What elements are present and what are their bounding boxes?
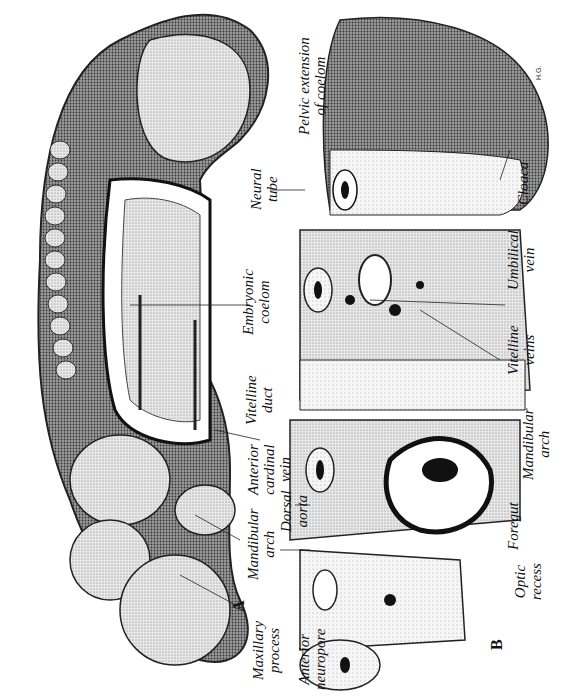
label-line: aorta: [294, 490, 310, 532]
label-dorsal-aorta: Dorsal aorta: [278, 490, 310, 532]
label-maxillary-process: Maxillary process: [250, 621, 282, 680]
label-line: Optic: [512, 563, 528, 600]
label-line: neuropore: [312, 629, 328, 690]
panel-a-letter: A: [230, 600, 248, 612]
label-umbilical-vein: Umbilical vein: [505, 230, 537, 290]
label-anterior-cardinal-vein: Anterior cardinal vein: [245, 444, 293, 495]
label-line: recess: [528, 563, 544, 600]
label-line: Vitelline: [505, 325, 521, 375]
panel-a-embryo: [38, 15, 268, 665]
label-line: Umbilical: [505, 230, 521, 290]
diagram-illustration: [0, 0, 580, 699]
label-line: Pelvic extension: [296, 37, 312, 135]
label-line: Mandibular: [520, 408, 536, 480]
label-line: vein: [521, 230, 537, 290]
label-line: Embryonic: [240, 269, 256, 335]
label-mandibular-arch-a: Mandibular arch: [245, 508, 277, 580]
label-pelvic-extension-of-coelom: Pelvic extension of coelom: [296, 37, 328, 135]
label-line: Vitelline: [243, 375, 259, 425]
label-line: coelom: [256, 269, 272, 335]
label-line: Maxillary: [250, 621, 266, 680]
label-vitelline-veins: Vitelline veins: [505, 325, 537, 375]
artist-signature: H.G.: [535, 66, 542, 80]
label-line: arch: [261, 508, 277, 580]
label-vitelline-duct: Vitelline duct: [243, 375, 275, 425]
label-anterior-neuropore: Anterior neuropore: [296, 629, 328, 690]
label-line: vein: [277, 444, 293, 495]
label-mandibular-arch-b: Mandibular arch: [520, 408, 552, 480]
label-line: process: [266, 621, 282, 680]
label-line: Anterior: [245, 444, 261, 495]
embryo-diagram: A B H.G. Maxillary process Mandibular ar…: [0, 0, 580, 699]
label-neural-tube: Neural tube: [248, 168, 280, 210]
label-embryonic-coelom: Embryonic coelom: [240, 269, 272, 335]
label-line: Foregut: [505, 502, 521, 550]
label-line: of coelom: [312, 37, 328, 135]
label-line: Cloaca: [515, 162, 531, 205]
label-optic-recess: Optic recess: [512, 563, 544, 600]
label-line: tube: [264, 168, 280, 210]
label-line: Neural: [248, 168, 264, 210]
label-line: arch: [536, 408, 552, 480]
label-line: Mandibular: [245, 508, 261, 580]
label-line: Anterior: [296, 629, 312, 690]
label-cloaca: Cloaca: [515, 162, 531, 205]
panel-b-letter: B: [488, 639, 506, 650]
label-line: duct: [259, 375, 275, 425]
label-line: veins: [521, 325, 537, 375]
label-foregut: Foregut: [505, 502, 521, 550]
label-line: Dorsal: [278, 490, 294, 532]
label-line: cardinal: [261, 444, 277, 495]
